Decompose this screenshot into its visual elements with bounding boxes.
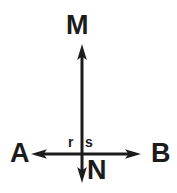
label-point-m: M bbox=[66, 12, 88, 39]
geometry-diagram: M A B N r s bbox=[0, 0, 177, 193]
label-point-b: B bbox=[151, 140, 170, 167]
label-point-n: N bbox=[87, 157, 106, 184]
label-point-a: A bbox=[10, 140, 29, 167]
label-angle-s: s bbox=[85, 135, 93, 149]
label-angle-r: r bbox=[68, 135, 73, 149]
